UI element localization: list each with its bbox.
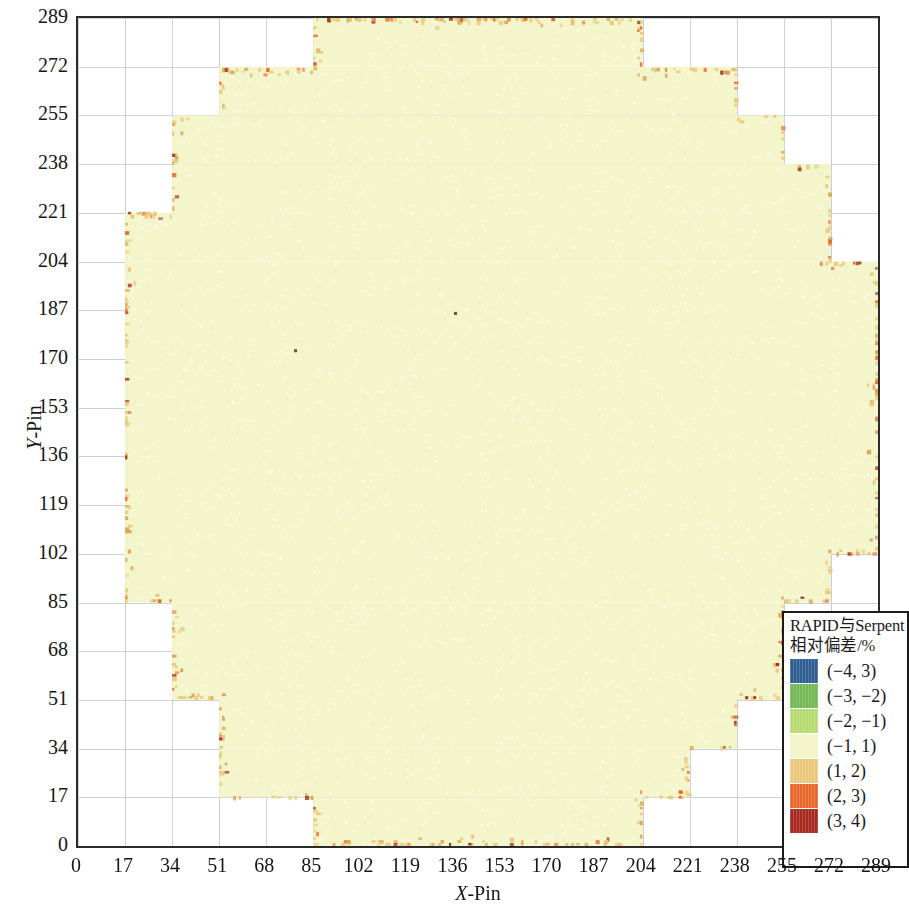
heatmap-layer bbox=[78, 18, 878, 846]
legend-box: RAPID与Serpent 相对偏差/% (−4, 3)(−3, −2)(−2,… bbox=[782, 611, 909, 868]
y-axis-tick-label: 119 bbox=[4, 493, 68, 513]
y-axis-tick-label: 0 bbox=[4, 834, 68, 854]
legend-entry-label: (−2, −1) bbox=[827, 712, 886, 730]
legend-entry-label: (−3, −2) bbox=[827, 687, 886, 705]
legend-entry: (−4, 3) bbox=[790, 658, 907, 683]
y-axis-title-symbol: Y bbox=[23, 439, 45, 450]
legend-color-swatch bbox=[790, 659, 818, 683]
plot-area: RAPID与Serpent 相对偏差/% (−4, 3)(−3, −2)(−2,… bbox=[76, 16, 880, 848]
legend-entry: (−3, −2) bbox=[790, 683, 907, 708]
y-axis-tick-label: 68 bbox=[4, 639, 68, 659]
legend-entry-label: (2, 3) bbox=[827, 787, 866, 805]
legend-color-swatch bbox=[790, 734, 818, 758]
legend-entry-label: (1, 2) bbox=[827, 762, 866, 780]
legend-entry: (2, 3) bbox=[790, 783, 907, 808]
x-axis-title-rest: -Pin bbox=[467, 882, 500, 904]
legend-entry: (3, 4) bbox=[790, 808, 907, 833]
legend-color-swatch bbox=[790, 809, 818, 833]
x-axis-tick-label: 289 bbox=[846, 854, 906, 876]
y-axis-tick-label: 255 bbox=[4, 103, 68, 123]
y-axis-tick-label: 85 bbox=[4, 591, 68, 611]
legend-color-swatch bbox=[790, 759, 818, 783]
legend-entry-list: (−4, 3)(−3, −2)(−2, −1)(−1, 1)(1, 2)(2, … bbox=[790, 658, 907, 833]
legend-entry: (−2, −1) bbox=[790, 708, 907, 733]
y-axis-tick-label: 204 bbox=[4, 250, 68, 270]
y-axis-tick-label: 17 bbox=[4, 785, 68, 805]
y-axis-tick-label: 238 bbox=[4, 152, 68, 172]
legend-entry: (1, 2) bbox=[790, 758, 907, 783]
x-axis-title: X-Pin bbox=[76, 882, 880, 905]
legend-title-line2: 相对偏差/% bbox=[790, 636, 907, 656]
y-axis-tick-label: 102 bbox=[4, 542, 68, 562]
y-axis-tick-label: 170 bbox=[4, 347, 68, 367]
legend-color-swatch bbox=[790, 784, 818, 808]
x-axis-title-symbol: X bbox=[455, 882, 467, 904]
heatmap-core-canvas bbox=[78, 18, 878, 846]
legend-entry-label: (−4, 3) bbox=[827, 662, 876, 680]
legend-entry-label: (−1, 1) bbox=[827, 737, 876, 755]
legend-color-swatch bbox=[790, 709, 818, 733]
y-axis-tick-label: 221 bbox=[4, 201, 68, 221]
legend-color-swatch bbox=[790, 684, 818, 708]
y-axis-tick-label: 51 bbox=[4, 688, 68, 708]
y-axis-title-rest: -Pin bbox=[23, 405, 45, 438]
y-axis-tick-label: 289 bbox=[4, 6, 68, 26]
legend-entry: (−1, 1) bbox=[790, 733, 907, 758]
y-axis-tick-label: 34 bbox=[4, 737, 68, 757]
legend-entry-label: (3, 4) bbox=[827, 812, 866, 830]
x-axis-tick-labels: 0173451688510211913615317018720422123825… bbox=[76, 854, 880, 880]
y-axis-tick-label: 272 bbox=[4, 55, 68, 75]
legend-title-line1: RAPID与Serpent bbox=[790, 616, 907, 636]
y-axis-tick-label: 187 bbox=[4, 298, 68, 318]
y-axis-title: Y-Pin bbox=[23, 368, 46, 488]
